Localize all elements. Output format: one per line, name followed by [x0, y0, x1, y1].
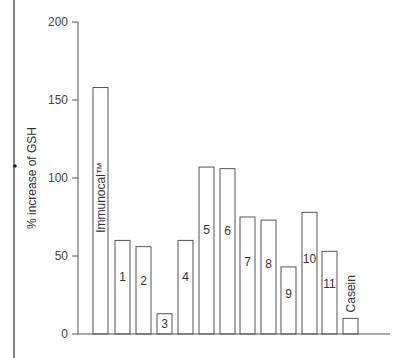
bar-label: Immunocal™	[94, 162, 108, 233]
y-tick-label: 200	[48, 15, 68, 29]
bar-label: 10	[303, 252, 317, 266]
bar-rect	[136, 247, 151, 334]
bar: 2	[136, 247, 151, 334]
bar: 11	[322, 251, 337, 334]
bar-label: 6	[224, 224, 231, 238]
bar-label: 3	[161, 317, 168, 331]
bar-label: 7	[244, 255, 251, 269]
bar: 1	[115, 240, 130, 334]
bar-rect	[220, 169, 235, 334]
bar: 8	[261, 220, 276, 334]
bar: 4	[178, 240, 193, 334]
bar-rect	[261, 220, 276, 334]
bar-rect	[322, 251, 337, 334]
bar: 5	[199, 167, 214, 334]
bars: Immunocal™1234567891011Casein	[93, 88, 358, 334]
bar-rect	[302, 212, 317, 334]
bar-rect	[178, 240, 193, 334]
bar: 3	[157, 314, 172, 334]
bar-rect	[199, 167, 214, 334]
bar-rect	[343, 318, 358, 334]
bar-label: 11	[323, 277, 336, 291]
bar: 10	[302, 212, 317, 334]
bar: 7	[240, 217, 255, 334]
bar-label: 4	[182, 270, 189, 284]
bar: 6	[220, 169, 235, 334]
bar-rect	[240, 217, 255, 334]
bar: 9	[281, 267, 296, 334]
y-tick-label: 150	[48, 93, 68, 107]
y-tick-label: 100	[48, 171, 68, 185]
bar-label: 9	[285, 287, 292, 301]
margin-dot	[13, 164, 17, 168]
bar-label: 1	[119, 270, 126, 284]
bar-label: 5	[203, 223, 210, 237]
bar: Casein	[343, 275, 358, 334]
bar-label: Casein	[344, 275, 358, 312]
bar-rect	[115, 240, 130, 334]
y-tick-label: 50	[55, 249, 69, 263]
bar-label: 2	[140, 274, 147, 288]
y-axis: 050100150200	[48, 15, 78, 341]
bar: Immunocal™	[93, 88, 108, 334]
bar-chart: 050100150200 % increase of GSH Immunocal…	[0, 0, 413, 358]
y-tick-label: 0	[61, 327, 68, 341]
bar-label: 8	[265, 257, 272, 271]
y-axis-title: % increase of GSH	[25, 127, 39, 229]
